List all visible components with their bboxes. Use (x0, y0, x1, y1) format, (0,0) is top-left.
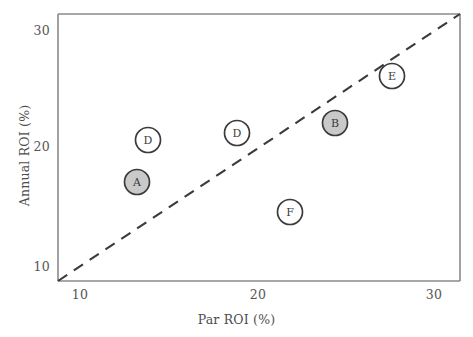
marker-label-b: B (331, 117, 339, 130)
plot-frame (58, 14, 460, 281)
marker-label-d-left: D (144, 134, 153, 147)
y-tick-label-10: 10 (18, 259, 50, 274)
marker-label-f: F (286, 206, 294, 219)
x-tick-label-10: 10 (60, 287, 100, 302)
marker-label-e: E (388, 70, 396, 83)
y-tick-label-30: 30 (18, 23, 50, 38)
x-axis-title: Par ROI (%) (0, 312, 473, 327)
x-tick-label-30: 30 (414, 287, 454, 302)
marker-label-a: A (132, 176, 142, 189)
data-point-marker-d-left[interactable]: D (136, 128, 161, 153)
data-point-marker-a[interactable]: A (125, 170, 150, 195)
y-axis-title: Annual ROI (%) (17, 96, 32, 216)
scatter-plot-figure: A D D B E F 30 2 (0, 0, 473, 337)
data-point-marker-e[interactable]: E (380, 64, 405, 89)
data-point-marker-d-middle[interactable]: D (225, 121, 250, 146)
data-point-marker-b[interactable]: B (323, 111, 348, 136)
x-tick-label-20: 20 (238, 287, 278, 302)
data-point-marker-f[interactable]: F (278, 200, 303, 225)
parity-reference-line (58, 14, 460, 281)
marker-label-d-middle: D (233, 127, 242, 140)
